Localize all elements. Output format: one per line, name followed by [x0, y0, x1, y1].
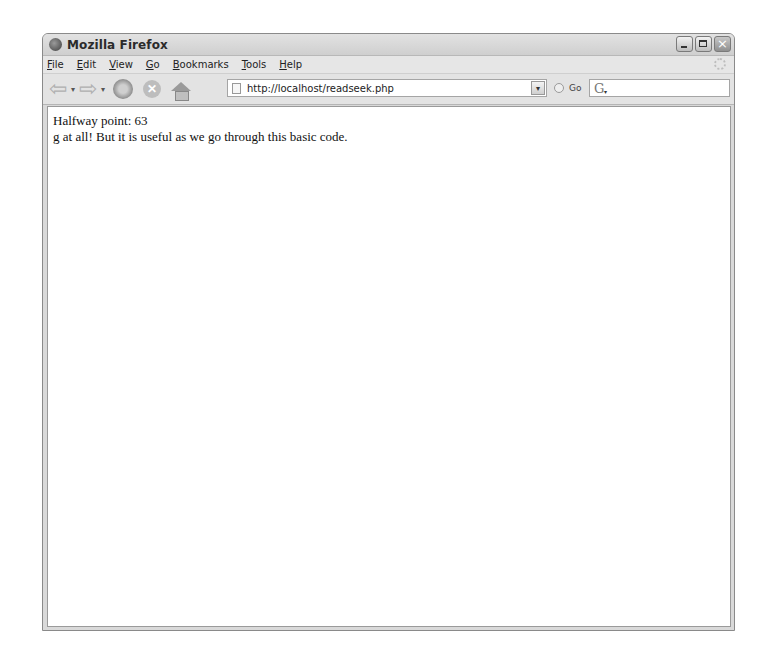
forward-history-dropdown[interactable]: ▾ [101, 85, 105, 94]
page-content: Halfway point: 63 g at all! But it is us… [47, 106, 731, 627]
page-icon [232, 83, 241, 94]
menu-view-accel: V [109, 59, 116, 70]
window-title: Mozilla Firefox [67, 38, 168, 52]
close-button[interactable]: × [714, 36, 731, 52]
firefox-logo-icon [49, 38, 62, 51]
back-history-dropdown[interactable]: ▾ [71, 85, 75, 94]
menu-bookmarks[interactable]: Bookmarks [173, 59, 229, 70]
file-content-text: g at all! But it is useful as we go thro… [53, 129, 725, 145]
menu-bar: File Edit View Go Bookmarks Tools Help [43, 56, 734, 74]
menu-help-label: elp [287, 59, 302, 70]
navigation-toolbar: ⇦ ▾ ⇨ ▾ ✕ http://localhost/readseek.php … [43, 74, 734, 105]
menu-go-label: o [154, 59, 160, 70]
menu-go[interactable]: Go [146, 59, 160, 70]
minimize-icon [681, 46, 687, 48]
menu-help[interactable]: Help [279, 59, 302, 70]
back-button[interactable]: ⇦ [49, 78, 67, 100]
close-icon: × [715, 37, 730, 51]
minimize-button[interactable] [676, 36, 693, 52]
title-bar[interactable]: Mozilla Firefox × [43, 34, 734, 56]
menu-file-label: ile [52, 59, 64, 70]
go-icon[interactable] [554, 83, 564, 93]
window-controls: × [676, 36, 731, 52]
google-search-engine-icon[interactable]: G [594, 81, 604, 96]
search-bar[interactable]: G ▾ [589, 79, 730, 97]
url-history-dropdown[interactable]: ▾ [531, 81, 545, 95]
maximize-icon [699, 40, 707, 47]
url-bar[interactable]: http://localhost/readseek.php ▾ [227, 79, 547, 97]
maximize-button[interactable] [695, 36, 712, 52]
halfway-point-text: Halfway point: 63 [53, 113, 725, 129]
menu-bookmarks-label: ookmarks [180, 59, 229, 70]
throbber-icon [714, 58, 726, 70]
go-button[interactable]: Go [569, 83, 581, 93]
menu-view-label: iew [116, 59, 133, 70]
menu-bookmarks-accel: B [173, 59, 180, 70]
home-button[interactable] [171, 82, 191, 91]
stop-button[interactable]: ✕ [143, 80, 161, 98]
menu-file[interactable]: File [47, 59, 64, 70]
browser-window: Mozilla Firefox × File Edit View Go Book… [42, 33, 735, 631]
menu-tools[interactable]: Tools [242, 59, 267, 70]
menu-tools-label: ools [246, 59, 266, 70]
menu-view[interactable]: View [109, 59, 133, 70]
url-input[interactable]: http://localhost/readseek.php [247, 83, 531, 94]
reload-button[interactable] [113, 79, 133, 99]
menu-edit[interactable]: Edit [77, 59, 96, 70]
search-engine-dropdown-icon[interactable]: ▾ [604, 88, 607, 95]
menu-edit-label: dit [83, 59, 96, 70]
menu-help-accel: H [279, 59, 287, 70]
forward-button[interactable]: ⇨ [79, 78, 97, 100]
menu-go-accel: G [146, 59, 154, 70]
